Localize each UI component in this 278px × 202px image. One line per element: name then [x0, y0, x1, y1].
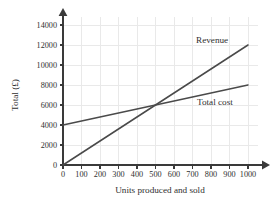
x-tick-label: 300	[112, 170, 124, 179]
x-tick-label: 500	[149, 170, 161, 179]
series-label-total-cost: Total cost	[197, 97, 233, 107]
line-chart: 0100200300400500600700800900100002000400…	[0, 0, 278, 202]
y-axis-title: Total (£)	[10, 79, 20, 111]
y-tick-label: 14000	[37, 21, 57, 30]
x-tick-label: 200	[94, 170, 106, 179]
y-tick-label: 6000	[41, 101, 57, 110]
y-axis-arrow-icon	[59, 8, 68, 16]
x-tick-label: 100	[75, 170, 87, 179]
x-tick-label: 700	[186, 170, 198, 179]
x-axis-arrow-icon	[262, 161, 270, 170]
y-tick-label: 0	[53, 161, 57, 170]
series-label-revenue: Revenue	[196, 35, 228, 45]
chart-container: 0100200300400500600700800900100002000400…	[0, 0, 278, 202]
x-tick-label: 900	[223, 170, 235, 179]
y-tick-label: 4000	[41, 121, 57, 130]
y-tick-label: 10000	[37, 61, 57, 70]
x-tick-label: 800	[205, 170, 217, 179]
x-axis-title: Units produced and sold	[115, 185, 205, 195]
gridlines	[63, 17, 258, 165]
y-tick-label: 8000	[41, 81, 57, 90]
x-tick-label: 0	[61, 170, 65, 179]
x-tick-label: 600	[168, 170, 180, 179]
x-tick-label: 1000	[240, 170, 256, 179]
y-tick-label: 12000	[37, 41, 57, 50]
x-tick-label: 400	[131, 170, 143, 179]
y-tick-label: 2000	[41, 141, 57, 150]
